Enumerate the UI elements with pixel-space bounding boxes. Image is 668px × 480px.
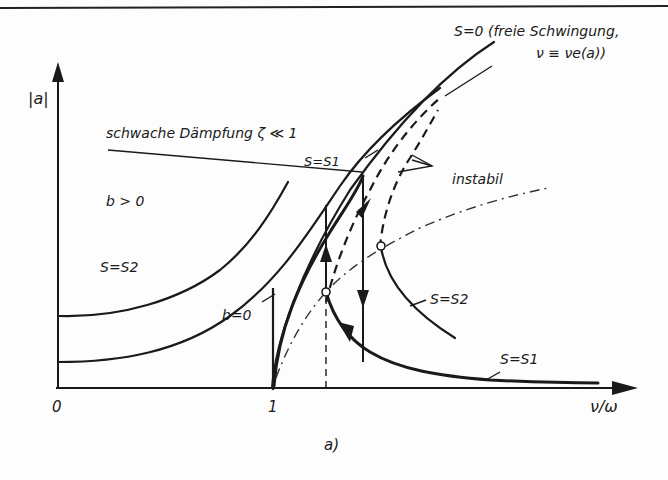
y-axis [52, 62, 64, 388]
leader-s0 [445, 66, 492, 96]
label-weak-damping: schwache Dämpfung ζ ≪ 1 [106, 125, 298, 141]
label-s2-right: S=S2 [430, 291, 469, 307]
marker-circle-s1 [322, 288, 330, 296]
label-s0-line1: S=0 (freie Schwingung, [454, 23, 619, 39]
y-axis-arrow-icon [52, 62, 64, 82]
figure-root: |a| ν/ω 0 1 a) S=0 (freie Schwingung, ν … [0, 0, 668, 480]
label-instabil: instabil [452, 171, 503, 187]
leader-s2-right [410, 300, 426, 306]
marker-circle-s2 [377, 242, 385, 250]
top-rule [0, 6, 668, 8]
label-s1-bottom: S=S1 [500, 351, 538, 367]
diagram-canvas: |a| ν/ω 0 1 a) S=0 (freie Schwingung, ν … [0, 0, 668, 480]
x-axis-arrow-icon [612, 381, 638, 395]
label-b-gt-0: b > 0 [106, 193, 145, 209]
figure-caption: a) [324, 436, 339, 454]
arrow-down-icon [357, 290, 369, 308]
curve-stability-boundary [276, 188, 548, 378]
x-axis-label: ν/ω [590, 397, 618, 416]
curve-s1-upper-stable [274, 176, 363, 386]
label-s1-top: S=S1 [304, 154, 340, 169]
label-s0-line2: ν ≡ νe(a)) [536, 45, 606, 61]
curve-backbone-s0 [272, 42, 494, 388]
label-s2-left: S=S2 [100, 259, 139, 275]
x-tick-0: 0 [52, 398, 62, 416]
y-axis-label: |a| [28, 89, 49, 108]
label-b-eq-0: b=0 [222, 307, 252, 323]
x-tick-1: 1 [268, 398, 278, 416]
